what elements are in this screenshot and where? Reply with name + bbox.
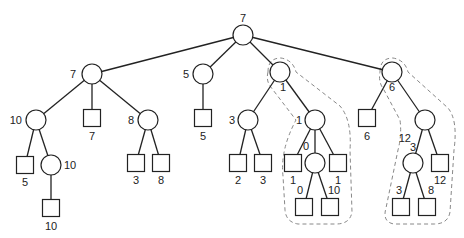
node-value-label: 10 [45,220,57,232]
leaf-node-c222 [322,199,339,216]
node-value-label: 3 [396,184,402,196]
edge-root-a [92,35,243,74]
game-tree-diagram: 77516107853161251038231013121001038 [0,0,464,238]
node-value-label: 1 [296,114,302,126]
node-value-label: 1 [290,174,296,186]
node-value-label: 7 [89,130,95,142]
node-value-label: 8 [128,114,134,126]
node-value-label: 3 [410,141,416,153]
leaf-node-a2 [84,110,101,127]
node-value-label: 1 [280,81,286,93]
chance-node-a12 [41,155,61,175]
leaf-node-c221 [296,199,313,216]
node-value-label: 10 [328,184,340,196]
leaf-node-a32 [153,155,170,172]
leaf-node-d22 [432,155,449,172]
leaf-node-a11 [17,157,34,174]
node-value-label: 8 [428,184,434,196]
leaf-node-c21 [285,155,302,172]
node-value-label: 5 [183,68,189,80]
node-value-label: 12 [434,174,446,186]
node-value-label: 5 [22,176,28,188]
chance-node-c [270,62,290,82]
node-value-label: 0 [297,184,303,196]
chance-node-c2 [305,110,325,130]
chance-node-d21 [403,153,423,173]
node-value-label: 7 [240,12,246,24]
chance-node-d [382,62,402,82]
node-value-label: 3 [260,174,266,186]
node-value-label: 2 [235,174,241,186]
node-value-label: 3 [229,114,235,126]
leaf-node-d211 [393,199,410,216]
chance-node-b [193,64,213,84]
chance-node-d2 [415,110,435,130]
node-value-label: 5 [200,130,206,142]
leaf-node-c12 [255,155,272,172]
chance-node-c1 [238,110,258,130]
chance-node-a1 [26,110,46,130]
leaf-node-a121 [43,200,60,217]
node-value-label: 10 [64,159,76,171]
node-value-label: 6 [389,81,395,93]
node-value-label: 0 [303,140,309,152]
leaf-node-a31 [128,155,145,172]
node-value-label: 7 [70,68,76,80]
node-value-label: 8 [158,174,164,186]
leaf-node-c11 [230,155,247,172]
leaf-node-d1 [359,110,376,127]
node-value-label: 10 [10,114,22,126]
leaf-node-d212 [419,199,436,216]
edge-root-d [243,35,392,72]
chance-node-a [82,64,102,84]
node-value-label: 3 [133,174,139,186]
chance-node-root [233,25,253,45]
chance-node-a3 [138,110,158,130]
chance-node-c22 [305,153,325,173]
leaf-node-c23 [330,155,347,172]
node-value-label: 6 [364,130,370,142]
leaf-node-b1 [195,110,212,127]
node-labels: 77516107853161251038231013121001038 [10,12,446,232]
